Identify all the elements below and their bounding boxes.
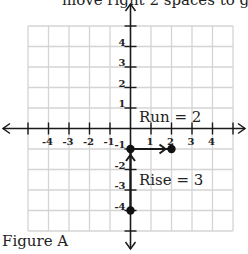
y-tick-label: -4 — [114, 201, 125, 212]
x-tick-label: -2 — [83, 136, 94, 147]
y-tick-label: 2 — [119, 78, 126, 89]
x-tick-label: -4 — [42, 136, 53, 147]
x-tick-label: -3 — [62, 136, 73, 147]
y-tick-label: 1 — [119, 98, 126, 109]
x-tick-label: 3 — [188, 136, 195, 147]
y-tick-label: 4 — [119, 37, 126, 48]
data-point — [126, 206, 134, 214]
x-tick-label: -1 — [103, 136, 114, 147]
figure-label: Figure A — [2, 232, 68, 250]
y-tick-label: -2 — [114, 160, 125, 171]
data-point — [126, 145, 134, 153]
x-tick-label: 4 — [208, 136, 215, 147]
coordinate-plane: -4-3-2-112344321-1-2-3-4Run = 2Rise = 3 — [0, 0, 248, 254]
y-tick-label: 3 — [119, 57, 126, 68]
x-tick-label: 2 — [167, 136, 174, 147]
run-label: Run = 2 — [139, 108, 201, 126]
rise-label: Rise = 3 — [139, 171, 203, 189]
x-tick-label: 1 — [147, 136, 154, 147]
y-tick-label: -1 — [114, 139, 125, 150]
y-tick-label: -3 — [114, 180, 125, 191]
data-point — [167, 145, 175, 153]
